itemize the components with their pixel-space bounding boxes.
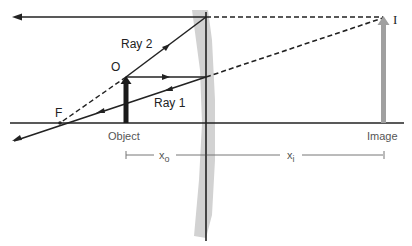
object-arrow-shaft <box>124 82 129 123</box>
image-arrow-head <box>378 16 390 25</box>
focal-point-label: F <box>55 106 62 120</box>
ray1-refracted-arrowhead-2 <box>96 108 105 113</box>
dashed-o-to-f <box>60 77 126 123</box>
ray1-label: Ray 1 <box>154 96 186 110</box>
image-distance-label: xi <box>287 149 295 164</box>
ray2-refracted-arrowhead <box>12 14 22 21</box>
ray2-label: Ray 2 <box>121 37 153 51</box>
diverging-lens <box>192 10 215 238</box>
object-label: Object <box>108 130 140 142</box>
object-point-label: O <box>111 60 120 74</box>
image-label: Image <box>367 130 398 142</box>
image-arrow-shaft <box>381 24 386 123</box>
ray1-arrowhead <box>162 74 170 80</box>
ray1-refracted-arrowhead-end <box>12 135 22 141</box>
focal-point-dot <box>58 121 62 125</box>
image-point-label: I <box>393 12 397 27</box>
object-distance-label: xo <box>159 149 170 164</box>
ray1-refracted-arrowhead-1 <box>164 86 173 91</box>
ray-diagram: Ray 2 Ray 1 O F I Object Image xo xi <box>0 0 412 246</box>
dashed-ray1-extension <box>206 18 383 77</box>
